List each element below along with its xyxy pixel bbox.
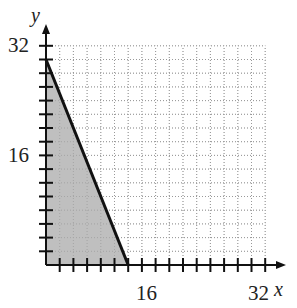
y-axis-label: y <box>29 4 40 27</box>
y-tick-32: 32 <box>8 33 29 57</box>
y-tick-16: 16 <box>8 143 29 167</box>
x-tick-16: 16 <box>136 281 157 305</box>
x-axis-label: x <box>273 278 283 300</box>
inequality-graph: x y 16 32 16 32 <box>0 0 297 308</box>
x-tick-32: 32 <box>248 281 269 305</box>
